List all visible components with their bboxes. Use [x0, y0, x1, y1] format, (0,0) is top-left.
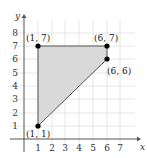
y-tick: 6	[12, 54, 18, 64]
x-axis-label: x	[140, 142, 145, 152]
x-tick: 2	[49, 143, 55, 153]
x-tick-labels: 1 2 3 4 5 6 7	[35, 143, 123, 153]
x-tick: 3	[62, 143, 68, 153]
point-label: (6, 7)	[94, 33, 118, 43]
y-tick: 7	[12, 41, 18, 51]
x-tick: 7	[117, 143, 123, 153]
y-axis-label: y	[14, 11, 21, 21]
point-1-7	[35, 43, 40, 48]
x-tick: 5	[90, 143, 96, 153]
x-axis-arrow-icon	[137, 137, 141, 142]
y-axis-arrow-icon	[22, 14, 27, 18]
y-tick: 4	[12, 81, 18, 91]
point-label: (1, 1)	[26, 129, 50, 139]
point-6-6	[104, 56, 109, 61]
point-label: (6, 6)	[107, 66, 131, 76]
x-tick: 4	[76, 143, 82, 153]
y-tick-labels: 1 2 3 4 5 6 7 8	[12, 28, 18, 131]
y-tick: 3	[12, 94, 18, 104]
y-tick: 5	[12, 68, 18, 78]
coordinate-plane: x y 1 2 3 4 5 6 7 1 2 3 4 5 6 7 8 (1, 7)…	[0, 0, 147, 158]
y-tick: 2	[12, 108, 18, 118]
point-1-1	[35, 123, 40, 128]
x-tick: 6	[104, 143, 110, 153]
x-tick: 1	[35, 143, 41, 153]
y-tick: 8	[12, 28, 18, 38]
point-6-7	[104, 43, 109, 48]
point-label: (1, 7)	[26, 33, 50, 43]
y-tick: 1	[12, 121, 18, 131]
